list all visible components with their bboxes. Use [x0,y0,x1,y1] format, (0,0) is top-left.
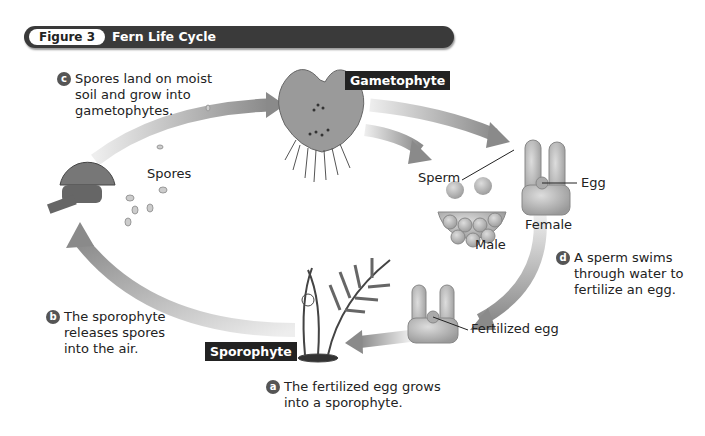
fertilized-egg-label: Fertilized egg [471,321,559,336]
arrow-to-sporophyte [345,330,410,354]
step-d-caption: dA sperm swims through water to fertiliz… [556,250,683,298]
step-a-caption: aThe fertilized egg grows into a sporoph… [266,379,441,411]
arrow-gametophyte-to-male [365,130,432,164]
female-label: Female [525,217,572,232]
female-archegonium-illustration [522,140,570,215]
sperm-label: Sperm [418,170,460,185]
step-badge: b [46,310,60,324]
step-b-caption: bThe sporophyte releases spores into the… [46,309,166,357]
male-label: Male [475,237,506,252]
gametophyte-label: Gametophyte [345,71,450,90]
fertilized-archegonium-illustration [408,285,458,343]
step-badge: c [57,72,71,86]
step-badge: d [556,251,570,265]
spores-label: Spores [147,166,191,181]
life-cycle-graphics [0,0,705,436]
egg-label: Egg [581,175,606,190]
step-badge: a [266,380,280,394]
sporophyte-label: Sporophyte [205,342,297,361]
sporophyte-fern-illustration [298,258,390,362]
step-c-caption: cSpores land on moist soil and grow into… [57,71,212,119]
